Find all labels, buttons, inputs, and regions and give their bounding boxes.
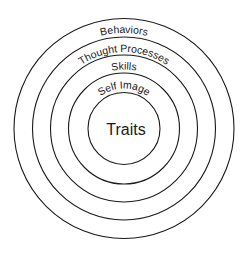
label-traits: Traits <box>106 121 145 138</box>
label-skills: Skills <box>110 59 137 72</box>
label-self-image: Self Image <box>95 78 153 98</box>
concentric-layers-diagram: Behaviors Thought Processes Skills Self … <box>0 0 244 254</box>
label-behaviors: Behaviors <box>99 23 149 38</box>
